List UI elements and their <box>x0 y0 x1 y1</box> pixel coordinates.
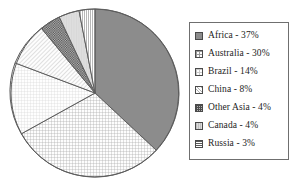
legend-item-africa: Africa - 37% <box>195 27 288 45</box>
legend-label-brazil: Brazil - 14% <box>208 67 258 77</box>
legend-label-russia: Russia - 3% <box>208 139 255 149</box>
legend-item-russia: Russia - 3% <box>195 135 288 153</box>
legend-swatch-africa <box>195 32 203 40</box>
pie-chart-area <box>6 4 186 182</box>
legend-item-canada: Canada - 4% <box>195 117 288 135</box>
pie-chart-svg <box>6 4 186 182</box>
chart-legend: Africa - 37% Australia - 30% Brazil - 14… <box>189 22 289 160</box>
legend-item-australia: Australia - 30% <box>195 45 288 63</box>
legend-label-other-asia: Other Asia - 4% <box>208 103 271 113</box>
legend-item-china: China - 8% <box>195 81 288 99</box>
legend-swatch-canada <box>195 122 203 130</box>
legend-item-other-asia: Other Asia - 4% <box>195 99 288 117</box>
legend-swatch-other-asia <box>195 104 203 112</box>
legend-swatch-brazil <box>195 68 203 76</box>
legend-swatch-australia <box>195 50 203 58</box>
pie-chart-figure: Africa - 37% Australia - 30% Brazil - 14… <box>0 0 294 182</box>
legend-label-canada: Canada - 4% <box>208 121 258 131</box>
legend-item-brazil: Brazil - 14% <box>195 63 288 81</box>
legend-swatch-russia <box>195 140 203 148</box>
legend-swatch-china <box>195 86 203 94</box>
legend-label-australia: Australia - 30% <box>208 49 270 59</box>
legend-label-china: China - 8% <box>208 85 252 95</box>
legend-label-africa: Africa - 37% <box>208 31 259 41</box>
